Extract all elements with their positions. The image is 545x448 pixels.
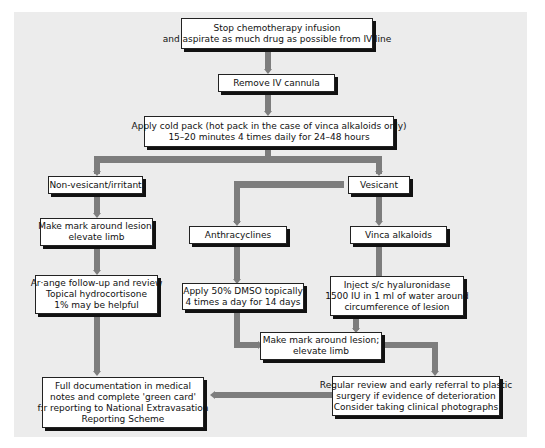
node-text: Reporting Scheme bbox=[82, 414, 165, 425]
node-stop-infusion: Stop chemotherapy infusion and aspirate … bbox=[181, 18, 373, 49]
connector-remove-to-cold bbox=[265, 92, 271, 112]
connector-vesicant-to-vinca bbox=[376, 195, 382, 222]
node-text: circumference of lesion bbox=[344, 302, 449, 313]
node-documentation: Full documentation in medical notes and … bbox=[42, 377, 204, 428]
node-vesicant: Vesicant bbox=[348, 176, 410, 194]
connector-stop-to-remove bbox=[265, 50, 271, 70]
node-hyaluronidase: Inject s/c hyaluronidase 1500 IU in 1 ml… bbox=[330, 276, 464, 316]
arrow-head bbox=[93, 371, 101, 376]
node-text: Consider taking clinical photographs bbox=[334, 402, 499, 413]
connector-dmso-right bbox=[234, 342, 259, 348]
node-text: elevate limb bbox=[293, 346, 349, 357]
node-text: Make mark around lesion; bbox=[38, 221, 155, 232]
node-text: Full documentation in medical bbox=[55, 381, 191, 392]
connector-mark-right bbox=[382, 342, 438, 348]
connector-vesicant-branch bbox=[234, 181, 344, 188]
node-mark-left: Make mark around lesion; elevate limb bbox=[40, 218, 153, 246]
node-text: Regular review and early referral to pla… bbox=[320, 380, 512, 391]
node-text: 1500 IU in 1 ml of water around bbox=[325, 291, 468, 302]
node-text: Stop chemotherapy infusion bbox=[213, 23, 340, 34]
node-cold-pack: Apply cold pack (hot pack in the case of… bbox=[144, 116, 394, 147]
node-text: Remove IV cannula bbox=[233, 78, 320, 89]
node-text: Apply 50% DMSO topically bbox=[183, 286, 303, 297]
node-text: Vinca alkaloids bbox=[365, 230, 432, 241]
connector-to-review bbox=[432, 342, 438, 372]
node-text: 4 times a day for 14 days bbox=[185, 297, 300, 308]
connector-split-bar bbox=[94, 156, 382, 163]
node-text: 1% may be helpful bbox=[54, 300, 139, 311]
node-text: elevate limb bbox=[69, 232, 125, 243]
node-text: surgery if evidence of deterioration bbox=[336, 391, 495, 402]
node-follow-up: Ar·ange follow-up and review Topical hyd… bbox=[35, 275, 158, 314]
node-text: Topical hydrocortisone bbox=[46, 289, 147, 300]
node-text: Make mark around lesion; bbox=[263, 335, 380, 346]
node-text: Ar·ange follow-up and review bbox=[31, 278, 163, 289]
node-dmso: Apply 50% DMSO topically 4 times a day f… bbox=[182, 283, 304, 310]
node-text: Apply cold pack (hot pack in the case of… bbox=[132, 121, 407, 132]
node-regular-review: Regular review and early referral to pla… bbox=[332, 376, 500, 416]
node-text: f:r reporting to National Extravasation bbox=[38, 403, 209, 414]
node-remove-cannula: Remove IV cannula bbox=[218, 74, 335, 92]
node-mark-center: Make mark around lesion; elevate limb bbox=[260, 332, 382, 360]
node-non-vesicant: Non-vesicant/irritant bbox=[48, 176, 143, 194]
connector-vinca-to-hyal bbox=[376, 244, 382, 279]
node-text: notes and complete 'green card' bbox=[50, 392, 196, 403]
connector-followup-to-doc bbox=[94, 314, 100, 372]
node-text: and aspirate as much drug as possible fr… bbox=[163, 34, 392, 45]
node-text: Vesicant bbox=[360, 180, 398, 191]
connector-mark-to-followup bbox=[94, 246, 100, 271]
connector-anthra-to-dmso bbox=[234, 244, 240, 280]
connector-nonvesicant-to-mark bbox=[94, 194, 100, 214]
connector-to-anthracyclines bbox=[234, 181, 240, 223]
arrow-head bbox=[210, 391, 215, 399]
node-vinca: Vinca alkaloids bbox=[350, 226, 447, 244]
node-text: 15–20 minutes 4 times daily for 24–48 ho… bbox=[168, 132, 369, 143]
node-text: Anthracyclines bbox=[205, 230, 271, 241]
node-text: Inject s/c hyaluronidase bbox=[344, 280, 451, 291]
connector-review-to-doc bbox=[215, 392, 332, 398]
node-text: Non-vesicant/irritant bbox=[49, 180, 141, 191]
node-anthracyclines: Anthracyclines bbox=[189, 226, 287, 244]
